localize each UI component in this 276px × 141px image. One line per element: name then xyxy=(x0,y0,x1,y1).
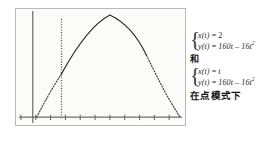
eq1-l2-term-a: 160t xyxy=(218,42,233,51)
eq1-l2-term-b: 16t xyxy=(241,42,252,51)
eq2-l2-eq: = xyxy=(212,78,217,87)
eq2-l1-rhs: t xyxy=(218,67,220,76)
eq2-l2-term-a: 160t xyxy=(218,78,233,87)
left-brace-1: { xyxy=(190,30,197,52)
equation-system-2: { x(t) = t y(t) = 160t – 16t2 xyxy=(190,66,276,88)
eq2-l2-term-b: 16t xyxy=(241,78,252,87)
equation-2-line-2: y(t) = 160t – 16t2 xyxy=(198,77,276,88)
eq1-l2-exponent: 2 xyxy=(252,40,255,46)
conjunction-label: 和 xyxy=(190,53,276,65)
parabola-solid-arc xyxy=(61,15,146,74)
equation-system-1: { x(t) = 2 y(t) = 160t – 16t2 xyxy=(190,30,276,52)
eq2-l1-eq: = xyxy=(212,67,217,76)
parametric-plot-svg xyxy=(16,9,185,125)
eq2-l2-exponent: 2 xyxy=(252,76,255,82)
graph-panel xyxy=(15,8,186,126)
mode-caption: 在点模式下 xyxy=(190,90,276,102)
left-brace-2: { xyxy=(190,66,197,88)
equations-panel: { x(t) = 2 y(t) = 160t – 16t2 和 { x(t) =… xyxy=(190,30,276,141)
equation-2-line-1: x(t) = t xyxy=(198,66,276,77)
eq2-l2-minus: – xyxy=(235,78,239,87)
eq1-l1-rhs: 2 xyxy=(218,31,222,40)
parabola-dotted-right xyxy=(146,55,180,117)
eq1-l2-eq: = xyxy=(212,42,217,51)
eq1-l2-minus: – xyxy=(235,42,239,51)
eq1-l1-eq: = xyxy=(212,31,217,40)
parabola-dotted-left xyxy=(37,74,62,117)
equation-1-line-1: x(t) = 2 xyxy=(198,30,276,41)
equation-1-line-2: y(t) = 160t – 16t2 xyxy=(198,41,276,52)
